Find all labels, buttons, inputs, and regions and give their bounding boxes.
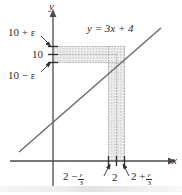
x-label-left-whole: 2 − [63,170,77,182]
x-label-right: 2 +ε3 [131,171,153,187]
x-label-left-numerator: ε [78,172,84,179]
y-axis-label: y [49,1,54,12]
x-axis-label: x [172,155,177,166]
x-label-right-numerator: ε [146,172,152,179]
y-label-lower: 10 − ε [8,70,35,81]
y-label-center: 10 [32,49,43,60]
curve-equation-text: y = 3x + 4 [87,22,134,34]
y-label-center-text: 10 [32,48,43,60]
x-axis-label-text: x [172,154,177,166]
x-label-center-text: 2 [112,171,118,183]
x-label-center: 2 [112,172,118,183]
curve-equation-label: y = 3x + 4 [87,23,134,34]
y-axis-label-text: y [49,0,54,12]
x-label-left: 2 −ε3 [63,171,85,187]
bottom-edge-artifact [0,186,182,192]
limit-epsilon-delta-figure: 10 + ε 10 10 − ε y = 3x + 4 y x 2 −ε3 2 … [0,0,182,195]
epsilon-band-horizontal [53,46,125,63]
y-label-upper-text: 10 + ε [8,26,35,38]
x-label-left-fraction: ε3 [78,172,84,187]
x-label-right-fraction: ε3 [146,172,152,187]
y-label-lower-text: 10 − ε [8,69,35,81]
x-label-right-whole: 2 + [131,170,145,182]
y-label-upper: 10 + ε [8,27,35,38]
